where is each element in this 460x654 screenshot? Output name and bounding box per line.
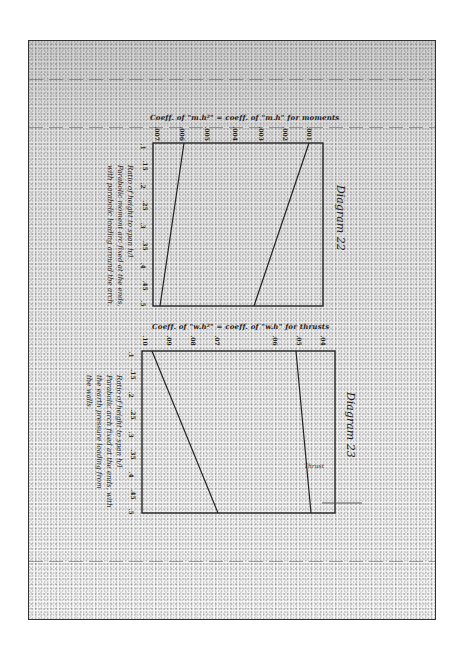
tick-label: .08: [190, 335, 197, 345]
caption-line: Parabolic arch fixed at the ends, with: [104, 375, 114, 508]
tick-label: .4: [128, 471, 135, 477]
tick-label: .4: [140, 262, 147, 268]
caption-line: Ratio of height to span h/l: [125, 165, 135, 307]
tick-label: .45: [130, 489, 137, 499]
tick-label: .10: [142, 335, 149, 345]
diagram23-title: Diagram 23: [344, 392, 357, 458]
tick-label: .3: [128, 431, 135, 437]
diagram22-axis-label: Coeff. of "m.h²" = coeff. of "m.h" for m…: [150, 113, 340, 122]
tick-label: .2: [140, 182, 147, 188]
tick-label: .07: [214, 335, 221, 345]
tick-label: .35: [130, 449, 137, 459]
tick-label: .35: [142, 240, 149, 250]
diagram22-title: Diagram 22: [334, 185, 347, 251]
tick-label: .001: [306, 126, 313, 141]
tick-label: .09: [166, 335, 173, 345]
tick-label: .3: [140, 222, 147, 228]
tick-label: .002: [282, 126, 289, 141]
diagram22-line-b: [254, 143, 309, 306]
diagram23-frame: [142, 351, 335, 513]
tick-label: .5: [140, 300, 147, 306]
tick-label: .007: [154, 126, 161, 141]
tick-label: .004: [232, 126, 239, 141]
tick-label: .15: [130, 369, 137, 379]
tick-label: .003: [258, 126, 265, 141]
tick-label: .04: [320, 335, 327, 345]
tick-label: .05: [296, 335, 303, 345]
tick-label: .005: [204, 126, 211, 141]
tick-label: .5: [128, 508, 135, 514]
tick-label: .1: [128, 351, 135, 357]
diagram22-caption: Ratio of height to span h/l Parabolic mo…: [105, 165, 135, 307]
diagram23-line-a: [152, 351, 218, 513]
tick-label: .06: [272, 335, 279, 345]
tick-label: .25: [142, 200, 149, 210]
caption-line: the walls.: [84, 375, 94, 508]
caption-line: Parabolic moment arc fixed at the ends,: [115, 165, 125, 307]
tick-label: .2: [128, 391, 135, 397]
tick-label: .1: [140, 143, 147, 149]
diagram22-line-a: [160, 143, 184, 306]
diagram23-margin-note: Thrust: [304, 462, 324, 469]
caption-line: Ratio of height to span h/l: [114, 375, 124, 508]
diagram23-axis-label: Coeff. of "w.h²" = coeff. of "w.h" for t…: [152, 322, 329, 331]
tick-label: .006: [179, 126, 186, 141]
diagram22-frame: [153, 143, 323, 306]
tick-label: .45: [142, 280, 149, 290]
tick-label: .25: [130, 409, 137, 419]
tick-label: .15: [142, 160, 149, 170]
diagram23-line-b: [296, 351, 311, 513]
caption-line: the earth pressure loading from: [94, 375, 104, 508]
diagram23-caption: Ratio of height to span h/l Parabolic ar…: [84, 375, 124, 508]
caption-line: with parabolic loading around the arch.: [105, 165, 115, 307]
